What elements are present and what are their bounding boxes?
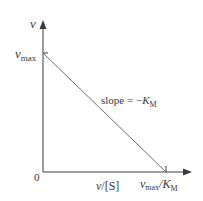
- data-line: [43, 53, 166, 172]
- x-intercept-label: vmax/KM: [140, 177, 178, 193]
- x-axis-label: v/[S]: [96, 179, 119, 193]
- y-axis-arrow-icon: [40, 20, 47, 29]
- origin-label: 0: [34, 171, 40, 183]
- x-axis-arrow-icon: [183, 169, 192, 176]
- slope-annotation: slope = −KM: [101, 94, 157, 109]
- y-intercept-label: vmax: [15, 46, 37, 63]
- y-axis-label: v: [30, 16, 36, 31]
- eadie-hofstee-chart: v vmax slope = −KM 0 v/[S] vmax/KM: [0, 0, 203, 201]
